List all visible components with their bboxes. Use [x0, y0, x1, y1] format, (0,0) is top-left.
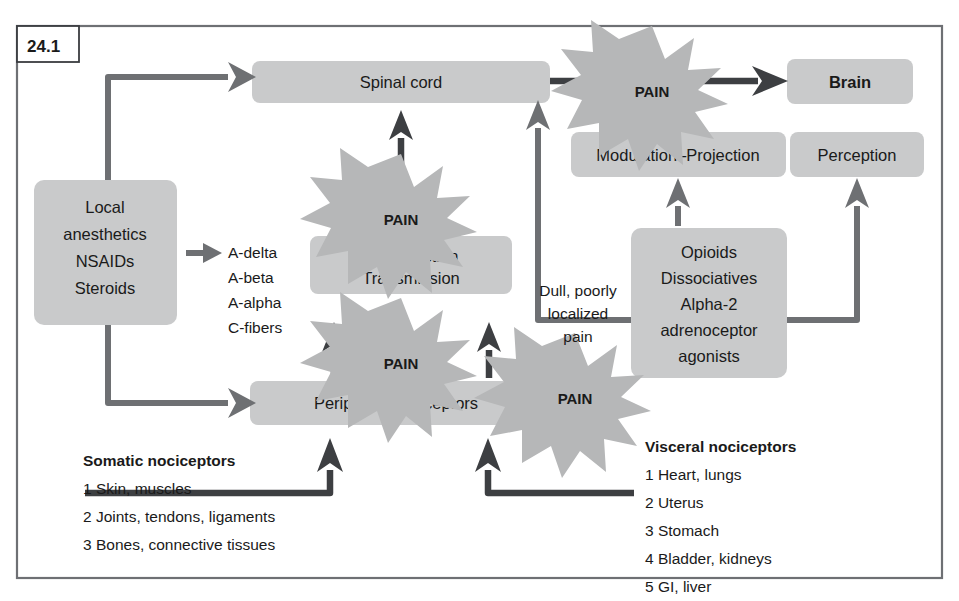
- figure-canvas: 24.1 Spinal cord Brain Modulation–Projec…: [0, 0, 959, 601]
- arrow-drugs-to-peripheral: [108, 325, 228, 403]
- burst-label-spinal-brain: PAIN: [635, 83, 670, 100]
- visceral-list-item-5: 5 GI, liver: [645, 578, 711, 595]
- somatic-list-item-1: 1 Skin, muscles: [83, 480, 192, 497]
- fiber-item-a-beta: A-beta: [228, 269, 274, 286]
- arrowhead-opioids-to-perception: [845, 178, 869, 208]
- fiber-item-a-alpha: A-alpha: [228, 294, 282, 311]
- arrow-drugs-to-spinal-cord: [108, 77, 228, 180]
- fiber-item-a-delta: A-delta: [228, 244, 277, 261]
- caption-dull-pain-line-2: localized: [548, 305, 608, 322]
- somatic-list-heading: Somatic nociceptors: [83, 452, 235, 469]
- left-drug-line-2: anesthetics: [63, 225, 146, 243]
- central-drug-line-4: adrenoceptor: [660, 321, 758, 339]
- visceral-list-item-1: 1 Heart, lungs: [645, 466, 742, 483]
- arrow-opioids-to-perception: [787, 206, 857, 320]
- central-drug-line-5: agonists: [678, 347, 739, 365]
- fiber-item-c-fibers: C-fibers: [228, 319, 283, 336]
- visceral-list-item-3: 3 Stomach: [645, 522, 719, 539]
- arrowhead-drugs-to-spinal-cord: [228, 62, 256, 92]
- arrowhead-visceral-to-peripheral: [475, 438, 501, 472]
- visceral-list-heading: Visceral nociceptors: [645, 438, 796, 455]
- arrowhead-somatic-to-peripheral: [317, 438, 343, 472]
- somatic-list-item-2: 2 Joints, tendons, ligaments: [83, 508, 275, 525]
- arrowhead-peripheral-to-transduction-right: [477, 322, 501, 352]
- node-spinal-cord-label: Spinal cord: [360, 73, 443, 91]
- burst-label-transduction-bottom: PAIN: [384, 355, 419, 372]
- arrowhead-opioids-to-spinal-cord: [526, 100, 550, 130]
- pain-pathway-diagram: 24.1 Spinal cord Brain Modulation–Projec…: [0, 0, 959, 601]
- central-drug-line-3: Alpha-2: [681, 295, 738, 313]
- burst-pain-peripheral: PAIN: [474, 327, 651, 478]
- visceral-list-item-2: 2 Uterus: [645, 494, 704, 511]
- somatic-list-item-3: 3 Bones, connective tissues: [83, 536, 275, 553]
- caption-dull-pain-line-1: Dull, poorly: [539, 282, 617, 299]
- arrowhead-transduction-to-spinal-cord: [389, 110, 413, 140]
- visceral-list-item-4: 4 Bladder, kidneys: [645, 550, 772, 567]
- node-brain-label: Brain: [829, 73, 871, 91]
- burst-label-transduction-top: PAIN: [384, 211, 419, 228]
- left-drug-line-1: Local: [85, 198, 124, 216]
- arrowhead-drugs-to-fibers: [203, 243, 222, 263]
- figure-tag-label: 24.1: [27, 37, 60, 56]
- burst-label-peripheral: PAIN: [558, 390, 593, 407]
- central-drug-line-2: Dissociatives: [661, 269, 757, 287]
- left-drug-line-4: Steroids: [75, 279, 136, 297]
- node-perception-label: Perception: [818, 146, 897, 164]
- left-drug-line-3: NSAIDs: [76, 252, 135, 270]
- arrowhead-opioids-to-modulation: [666, 178, 690, 208]
- central-drug-line-1: Opioids: [681, 243, 737, 261]
- caption-dull-pain-line-3: pain: [563, 328, 592, 345]
